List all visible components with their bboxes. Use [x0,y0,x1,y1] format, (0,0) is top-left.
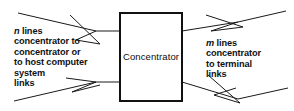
concentrator-diagram: Concentrator n lines concentrator to con… [0,0,294,111]
left-annotation-text-1: lines [22,26,42,36]
connector-top-right-outbound [182,11,286,31]
right-annotation-variable: m [206,38,214,48]
right-annotation: m lines concentrator to terminal links [206,38,261,80]
left-annotation-line-1: n lines [14,26,87,36]
left-annotation-line-2: concentrator to [14,36,87,46]
left-annotation-line-4: to host computer [14,57,87,67]
right-annotation-line-1: m lines [206,38,261,48]
left-annotation-line-3: concentrator or [14,47,87,57]
concentrator-box-label: Concentrator [123,51,179,62]
right-annotation-line-4: links [206,69,261,79]
right-annotation-line-2: concentrator [206,48,261,58]
left-annotation: n lines concentrator to concentrator or … [14,26,87,88]
right-annotation-text-1: lines [217,38,237,48]
left-annotation-variable: n [14,26,20,36]
left-annotation-line-5: system [14,68,87,78]
arrowhead-top-right [206,15,243,31]
left-annotation-line-6: links [14,78,87,88]
right-annotation-line-3: to terminal [206,59,261,69]
